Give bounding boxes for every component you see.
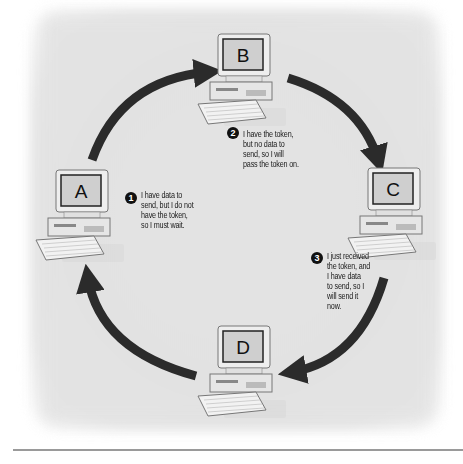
computer-icon: A bbox=[34, 170, 124, 270]
step-badge-1: 1 bbox=[125, 192, 137, 204]
node-d: D bbox=[196, 326, 286, 426]
note-line: have the token, bbox=[141, 211, 194, 221]
note-line: will send it bbox=[327, 292, 370, 302]
node-b: B bbox=[196, 34, 286, 134]
node-label: C bbox=[386, 179, 400, 200]
note-b: I have the token, but no data to send, s… bbox=[243, 130, 299, 170]
node-label: A bbox=[75, 181, 88, 202]
note-line: send, so I will bbox=[243, 150, 299, 160]
note-line: pass the token on. bbox=[243, 160, 299, 170]
note-line: I have the token, bbox=[243, 130, 299, 140]
arrow-b-to-c bbox=[288, 78, 378, 160]
arrow-d-to-a bbox=[88, 278, 196, 376]
node-label: D bbox=[236, 337, 250, 358]
note-line: I have data bbox=[327, 272, 370, 282]
note-line: to send, so I bbox=[327, 282, 370, 292]
note-line: I have data to bbox=[141, 191, 194, 201]
step-badge-2: 2 bbox=[227, 127, 239, 139]
computer-icon: B bbox=[196, 34, 286, 134]
note-line: send, but I do not bbox=[141, 201, 194, 211]
note-line: so I must wait. bbox=[141, 221, 194, 231]
note-line: but no data to bbox=[243, 140, 299, 150]
node-label: B bbox=[237, 45, 250, 66]
arrow-a-to-b bbox=[92, 72, 208, 160]
step-badge-3: 3 bbox=[311, 252, 323, 264]
bottom-rule bbox=[13, 449, 463, 451]
note-line: I just received bbox=[327, 252, 370, 262]
computer-icon: D bbox=[196, 326, 286, 426]
node-a: A bbox=[34, 170, 124, 270]
note-a: I have data to send, but I do not have t… bbox=[141, 191, 194, 231]
note-line: now. bbox=[327, 302, 370, 312]
note-c: I just received the token, and I have da… bbox=[327, 252, 370, 312]
note-line: the token, and bbox=[327, 262, 370, 272]
